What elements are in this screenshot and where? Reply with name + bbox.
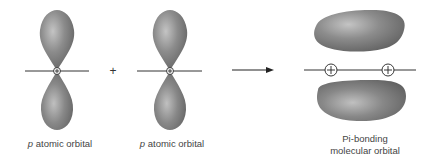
- lower-lobe: [41, 71, 73, 130]
- result-label-line1: Pi-bonding: [315, 133, 415, 145]
- orbital-label-text: atomic orbital: [33, 138, 92, 149]
- left-orbital-label: p atomic orbital: [15, 138, 105, 150]
- upper-lobe: [40, 10, 74, 71]
- right-orbital-label: p atomic orbital: [127, 138, 217, 150]
- p-orbital-right: [137, 10, 202, 130]
- plus-operator: +: [109, 64, 116, 78]
- p-orbital-left: [25, 10, 89, 130]
- lower-lobe: [317, 80, 406, 121]
- result-label: Pi-bonding molecular orbital: [315, 133, 415, 157]
- reaction-arrow-icon: [232, 67, 274, 73]
- result-label-line2: molecular orbital: [315, 145, 415, 157]
- orbital-label-text: atomic orbital: [145, 138, 204, 149]
- lower-lobe: [154, 71, 186, 130]
- pi-bonding-orbital: [304, 10, 416, 121]
- upper-lobe: [314, 10, 405, 52]
- upper-lobe: [153, 10, 187, 71]
